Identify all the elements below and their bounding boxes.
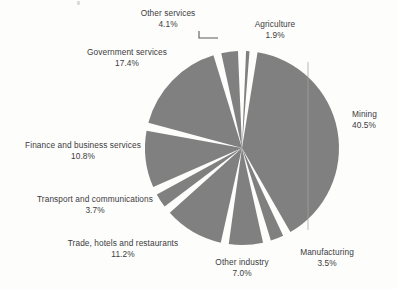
callout-value: 11.2% bbox=[50, 249, 196, 260]
callout-government-services: Government services 17.4% bbox=[62, 47, 192, 68]
callout-other-services: Other services 4.1% bbox=[113, 8, 223, 29]
callout-label: Other services bbox=[113, 8, 223, 19]
callout-trade-hotels-restaurants: Trade, hotels and restaurants 11.2% bbox=[50, 238, 196, 259]
callout-label: Other industry bbox=[198, 257, 286, 268]
callout-mining: Mining 40.5% bbox=[352, 109, 396, 130]
callout-label: Finance and business services bbox=[8, 140, 158, 151]
callout-other-industry: Other industry 7.0% bbox=[198, 257, 286, 278]
callout-transport-communications: Transport and communications 3.7% bbox=[18, 194, 172, 215]
callout-label: Mining bbox=[352, 109, 396, 120]
pie-chart-figure: Other services 4.1% Agriculture 1.9% Min… bbox=[0, 0, 397, 289]
callout-value: 17.4% bbox=[62, 58, 192, 69]
leader-line-other-services bbox=[199, 31, 218, 38]
callout-value: 3.7% bbox=[18, 205, 172, 216]
pie-slice-group bbox=[145, 51, 339, 245]
callout-value: 40.5% bbox=[352, 120, 396, 131]
callout-label: Agriculture bbox=[232, 19, 318, 30]
callout-value: 3.5% bbox=[283, 258, 371, 269]
callout-value: 7.0% bbox=[198, 268, 286, 279]
callout-finance-business-services: Finance and business services 10.8% bbox=[8, 140, 158, 161]
callout-agriculture: Agriculture 1.9% bbox=[232, 19, 318, 40]
callout-manufacturing: Manufacturing 3.5% bbox=[283, 247, 371, 268]
callout-value: 4.1% bbox=[113, 19, 223, 30]
callout-value: 1.9% bbox=[232, 30, 318, 41]
pie-slice bbox=[242, 52, 339, 232]
callout-value: 10.8% bbox=[8, 151, 158, 162]
callout-label: Government services bbox=[62, 47, 192, 58]
callout-label: Manufacturing bbox=[283, 247, 371, 258]
callout-label: Transport and communications bbox=[18, 194, 172, 205]
callout-label: Trade, hotels and restaurants bbox=[50, 238, 196, 249]
